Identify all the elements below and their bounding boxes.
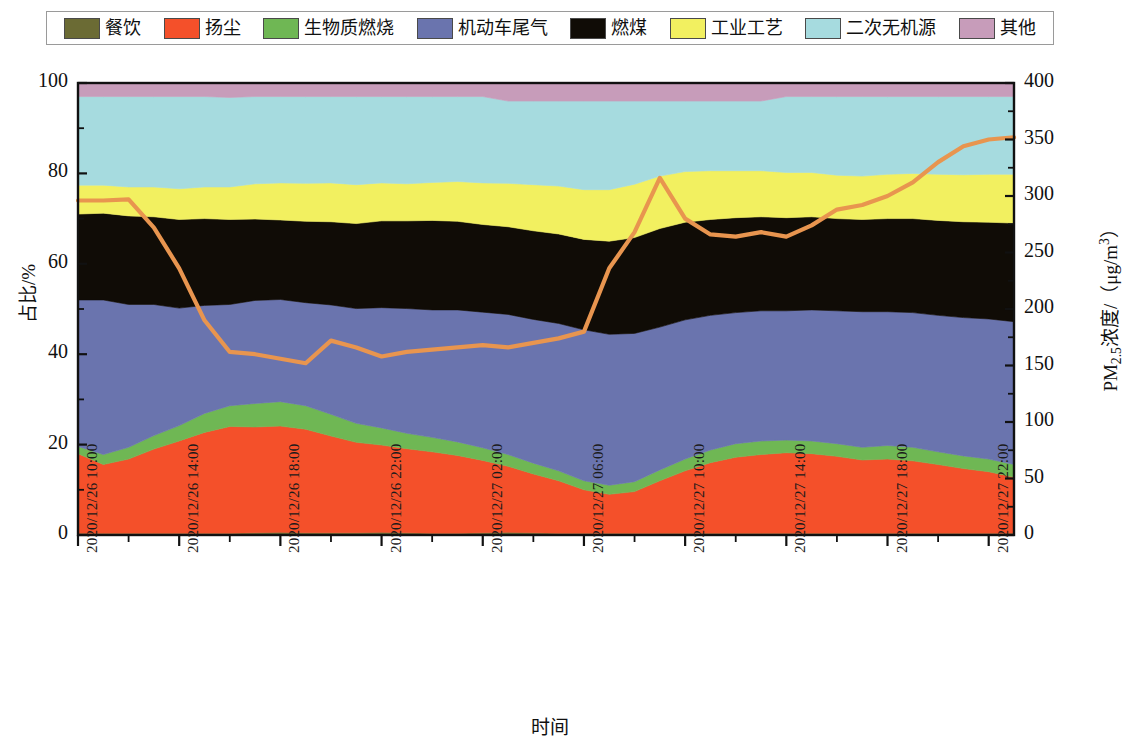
x-axis-tick-label: 2020/12/26 18:00 [286,444,303,553]
x-axis-title: 时间 [0,712,1099,739]
x-axis-tick-label: 2020/12/27 22:00 [995,444,1012,553]
x-axis-tick-label: 2020/12/27 14:00 [792,444,809,553]
y-axis-left-tick-label: 0 [16,521,68,544]
x-axis-tick-label: 2020/12/26 10:00 [84,444,101,553]
y-axis-right-tick-label: 100 [1024,408,1078,431]
x-axis-tick-label: 2020/12/26 22:00 [388,444,405,553]
y-axis-left-tick-label: 20 [16,431,68,454]
y-axis-left-tick-label: 80 [16,159,68,182]
x-axis-tick-label: 2020/12/27 10:00 [691,444,708,553]
y-axis-right-tick-label: 0 [1024,521,1078,544]
y-axis-left-tick-label: 40 [16,340,68,363]
y-axis-right-tick-label: 50 [1024,465,1078,488]
y-axis-right-tick-label: 250 [1024,239,1078,262]
x-axis-tick-label: 2020/12/27 02:00 [489,444,506,553]
x-axis-tick-label: 2020/12/27 06:00 [590,444,607,553]
y-axis-right-tick-label: 350 [1024,126,1078,149]
x-axis-tick-label: 2020/12/26 14:00 [185,444,202,553]
y-axis-right-tick-label: 150 [1024,352,1078,375]
y-axis-right-tick-label: 300 [1024,182,1078,205]
y-axis-right-title: PM2.5浓度/（μg/m3） [1095,195,1125,415]
x-axis-tick-label: 2020/12/27 18:00 [894,444,911,553]
y-axis-left-tick-label: 60 [16,250,68,273]
y-axis-right-tick-label: 400 [1024,69,1078,92]
y-axis-left-tick-label: 100 [16,69,68,92]
y-axis-right-tick-label: 200 [1024,295,1078,318]
